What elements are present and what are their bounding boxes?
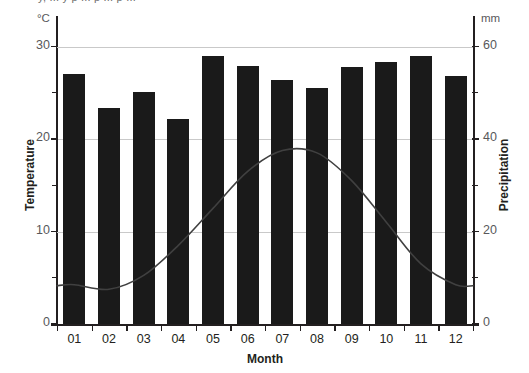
precipitation-line bbox=[57, 149, 473, 290]
x-tick bbox=[126, 324, 127, 331]
x-tick bbox=[161, 324, 162, 331]
x-tick bbox=[404, 324, 405, 331]
x-tick bbox=[92, 324, 93, 331]
right-axis-unit: mm bbox=[481, 12, 500, 24]
y-tick-label: 20 bbox=[10, 130, 50, 144]
y2-tick-label: 60 bbox=[483, 38, 523, 52]
plot-area: 01020300204060 010203040506070809101112 bbox=[57, 28, 473, 324]
precipitation-line-svg bbox=[57, 28, 473, 324]
x-tick bbox=[57, 324, 58, 331]
x-tick bbox=[300, 324, 301, 331]
y-tick-label: 10 bbox=[10, 223, 50, 237]
x-tick bbox=[196, 324, 197, 331]
climate-chart: y, ... y p ... p ... p ... °C mm Tempera… bbox=[0, 0, 529, 373]
y-tick-label: 30 bbox=[10, 38, 50, 52]
y2-tick-label: 20 bbox=[483, 223, 523, 237]
clipped-caption: y, ... y p ... p ... p ... bbox=[0, 0, 529, 5]
x-axis-title: Month bbox=[57, 352, 473, 366]
x-tick-label: 12 bbox=[436, 332, 476, 346]
x-tick bbox=[473, 324, 474, 331]
x-tick bbox=[438, 324, 439, 331]
y2-tick-label: 0 bbox=[483, 315, 523, 329]
x-tick bbox=[265, 324, 266, 331]
x-tick bbox=[369, 324, 370, 331]
left-axis-unit: °C bbox=[37, 12, 50, 24]
y2-tick bbox=[472, 231, 479, 232]
y2-tick bbox=[472, 138, 479, 139]
y-tick-label: 0 bbox=[10, 315, 50, 329]
y2-tick bbox=[472, 46, 479, 47]
x-tick bbox=[334, 324, 335, 331]
x-tick bbox=[230, 324, 231, 331]
y2-tick-label: 40 bbox=[483, 130, 523, 144]
